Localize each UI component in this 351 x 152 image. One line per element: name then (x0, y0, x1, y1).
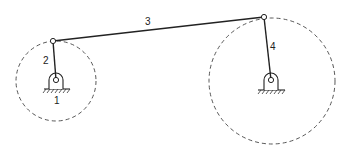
label-frame: 1 (54, 95, 60, 106)
label-coupler: 3 (145, 16, 151, 27)
ground-hatching (258, 90, 285, 94)
four-bar-linkage-diagram: 2 1 3 4 (0, 0, 351, 152)
right-ground-support (258, 73, 285, 94)
link-3-coupler (53, 17, 264, 41)
label-rocker: 4 (270, 41, 276, 52)
crank-coupler-joint (50, 38, 55, 43)
left-ground-pin (53, 77, 58, 82)
label-crank: 2 (43, 55, 49, 66)
right-ground-pin (268, 77, 273, 82)
ground-hatching (43, 89, 70, 93)
coupler-rocker-joint (261, 14, 266, 19)
